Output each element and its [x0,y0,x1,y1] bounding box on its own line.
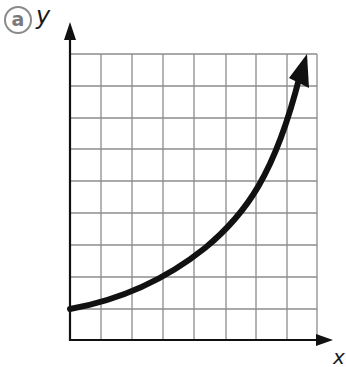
curve-arrow-icon [289,54,309,88]
axes [69,30,322,341]
x-axis-arrow-icon [316,334,333,346]
curve [70,75,300,309]
y-axis-arrow-icon [64,22,76,40]
graph [0,0,346,367]
